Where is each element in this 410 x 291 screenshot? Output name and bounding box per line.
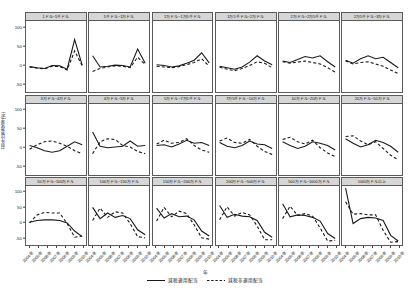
panel-title: 200万ドル~500万ドル: [215, 177, 277, 186]
legend-item: 減税非適用配当: [207, 277, 263, 283]
series-line: [156, 53, 209, 67]
y-tick-mark: [23, 128, 25, 129]
panel-title: 500万ドル~1000万ドル: [278, 177, 340, 186]
chart-figure: 前年比変化率(%) 年 1ドル~5千ドル5千ドル~1万ドル1万ドル~1万5千ドル…: [0, 0, 410, 291]
x-tick-mark: [345, 246, 346, 248]
panel-plot-area: [152, 21, 214, 93]
series-line: [93, 132, 146, 148]
panel-title: 150万ドル~200万ドル: [152, 177, 214, 186]
panel-plot-area: [215, 186, 277, 246]
panel-title: 5千ドル~1万ドル: [88, 12, 150, 21]
series-line: [93, 49, 146, 67]
x-tick-mark: [155, 246, 156, 248]
x-tick-mark: [83, 246, 84, 248]
x-axis: 2004年2005年2006年2007年2008年2009年2010年: [341, 246, 403, 268]
x-tick-mark: [164, 246, 165, 248]
y-tick-label: 50: [17, 43, 22, 48]
series-line: [30, 212, 83, 237]
facet-panel: 1万ドル~1万5千ドル: [152, 12, 214, 93]
x-tick-mark: [255, 246, 256, 248]
x-tick-mark: [273, 246, 274, 248]
panel-plot-area: [278, 21, 340, 93]
facet-panel: 500万ドル~1000万ドル: [278, 177, 340, 246]
facet-panel: 2万ドル~2万5千ドル: [278, 12, 340, 93]
x-tick-mark: [29, 246, 30, 248]
panel-plot-area: [152, 104, 214, 176]
x-axis: 2004年2005年2006年2007年2008年2009年2010年: [25, 246, 87, 268]
panel-title: 20万ドル~50万ドル: [341, 95, 403, 104]
x-tick-mark: [300, 246, 301, 248]
panel-title: 7万5千ドル~10万ドル: [215, 95, 277, 104]
x-axis: 2004年2005年2006年2007年2008年2009年2010年: [215, 246, 277, 268]
series-line: [283, 204, 336, 239]
facet-panel: 3万ドル~4万ドル: [25, 95, 87, 176]
x-tick-mark: [291, 246, 292, 248]
x-tick-mark: [56, 246, 57, 248]
panel-plot-area: [25, 104, 87, 176]
series-line: [30, 220, 83, 237]
series-line: [93, 207, 146, 234]
x-tick-mark: [38, 246, 39, 248]
x-tick-mark: [110, 246, 111, 248]
x-tick-mark: [128, 246, 129, 248]
facet-panel: 100万ドル~150万ドル: [88, 177, 150, 246]
series-line: [156, 208, 209, 236]
panel-title: 2万5千ドル~3万ドル: [341, 12, 403, 21]
panel-plot-area: [88, 186, 150, 246]
x-tick-mark: [92, 246, 93, 248]
series-line: [283, 61, 336, 72]
x-tick-mark: [309, 246, 310, 248]
panel-title: 10万ドル~20万ドル: [278, 95, 340, 104]
y-tick-mark: [23, 64, 25, 65]
x-tick-mark: [65, 246, 66, 248]
panel-title: 1万ドル~1万5千ドル: [152, 12, 214, 21]
series-line: [346, 135, 399, 159]
facet-panel: 5万ドル~7万5千ドル: [152, 95, 214, 176]
x-tick-mark: [246, 246, 247, 248]
x-tick-mark: [200, 246, 201, 248]
y-tick-mark: [23, 166, 25, 167]
series-line: [346, 138, 399, 151]
series-line: [283, 137, 336, 156]
panel-plot-area: [341, 21, 403, 93]
series-line: [219, 62, 272, 71]
series-line: [283, 141, 336, 149]
series-line: [156, 207, 209, 239]
y-axis: 100500-50: [0, 21, 25, 93]
chart-legend: 減税適用配当減税非適用配当: [0, 277, 410, 283]
facet-grid: 1ドル~5千ドル5千ドル~1万ドル1万ドル~1万5千ドル1万5千ドル~2万ドル2…: [25, 12, 403, 246]
series-line: [30, 51, 83, 70]
x-tick-mark: [372, 246, 373, 248]
series-line: [30, 40, 83, 70]
y-tick-mark: [23, 206, 25, 207]
panel-plot-area: [152, 186, 214, 246]
panel-plot-area: [341, 104, 403, 176]
x-tick-mark: [173, 246, 174, 248]
panel-title: 1ドル~5千ドル: [25, 12, 87, 21]
x-axis-title: 年: [0, 268, 410, 275]
x-tick-mark: [354, 246, 355, 248]
x-tick-mark: [381, 246, 382, 248]
panel-plot-area: [215, 21, 277, 93]
x-tick-mark: [399, 246, 400, 248]
facet-panel: 50万ドル~100万ドル: [25, 177, 87, 246]
series-line: [219, 206, 272, 238]
panel-plot-area: [215, 104, 277, 176]
y-tick-mark: [23, 190, 25, 191]
x-axis: 2004年2005年2006年2007年2008年2009年2010年: [278, 246, 340, 268]
x-tick-mark: [101, 246, 102, 248]
y-tick-label: 50: [17, 126, 22, 131]
series-line: [93, 57, 146, 71]
y-tick-label: 100: [15, 107, 22, 112]
x-axis: 2004年2005年2006年2007年2008年2009年2010年: [88, 246, 150, 268]
y-tick-label: -50: [16, 81, 22, 86]
panel-plot-area: [88, 21, 150, 93]
x-tick-mark: [218, 246, 219, 248]
legend-label: 減税適用配当: [168, 277, 198, 283]
panel-title: 4万ドル~5万ドル: [88, 95, 150, 104]
x-tick-mark: [318, 246, 319, 248]
facet-panel: 2万5千ドル~3万ドル: [341, 12, 403, 93]
x-tick-mark: [119, 246, 120, 248]
y-axis: 100500-50: [0, 186, 25, 246]
series-line: [346, 56, 399, 68]
